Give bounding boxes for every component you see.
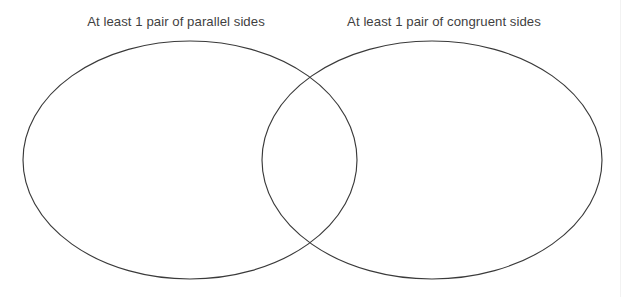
venn-ellipse-right[interactable] (262, 41, 602, 279)
venn-diagram-canvas: At least 1 pair of parallel sides At lea… (0, 0, 625, 297)
venn-circles-group (0, 0, 625, 297)
right-edge-artifact (620, 0, 621, 297)
venn-ellipse-left[interactable] (23, 41, 357, 279)
